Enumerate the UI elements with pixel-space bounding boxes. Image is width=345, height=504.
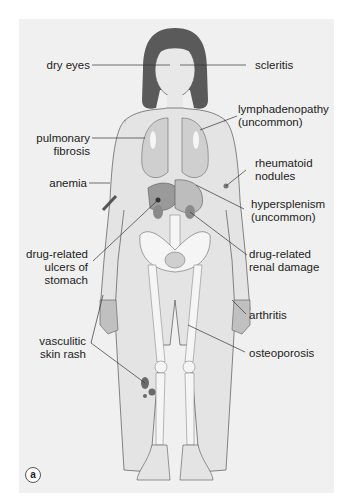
label-rheumatoid-nodules: rheumatoidnodules xyxy=(255,157,313,183)
label-vasculitic-skin-rash: vasculiticskin rash xyxy=(39,335,86,361)
left-tibia xyxy=(156,373,165,445)
label-lymphadenopathy: lymphadenopathy(uncommon) xyxy=(238,103,329,129)
label-hypersplenism: hypersplenism(uncommon) xyxy=(251,198,325,224)
label-pulmonary-fibrosis: pulmonaryfibrosis xyxy=(36,132,90,158)
label-dry-eyes: dry eyes xyxy=(47,59,90,72)
rash-spot xyxy=(149,389,156,396)
label-osteoporosis: osteoporosis xyxy=(249,347,314,360)
label-arthritis: arthritis xyxy=(249,309,287,322)
label-drug-related-ulcers: drug-relatedulcers ofstomach xyxy=(26,248,88,287)
right-tibia xyxy=(185,373,194,445)
label-drug-related-renal-damage: drug-relatedrenal damage xyxy=(249,248,319,274)
bladder xyxy=(165,252,185,268)
rash-spot xyxy=(143,394,147,398)
label-anemia: anemia xyxy=(49,177,87,190)
right-hand xyxy=(232,300,250,334)
spine xyxy=(170,215,180,250)
torso xyxy=(112,108,237,472)
kidney-left xyxy=(153,205,163,219)
panel-label: a xyxy=(25,467,41,483)
left-hand xyxy=(100,300,118,334)
label-scleritis: scleritis xyxy=(255,59,293,72)
